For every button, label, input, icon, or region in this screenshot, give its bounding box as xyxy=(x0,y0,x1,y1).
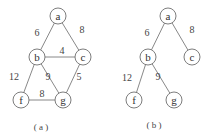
node-label: a xyxy=(56,10,61,22)
node-label: f xyxy=(132,94,136,106)
edge-weight-label: 12 xyxy=(9,71,19,82)
edge-weight-label: 4 xyxy=(60,45,65,56)
node-label: a xyxy=(166,10,171,22)
edge-weight-label: 8 xyxy=(80,24,85,35)
node-label: c xyxy=(190,51,195,63)
graph-canvas: 68412958abcfg 68129abcfg ( a ) ( b ) xyxy=(0,0,210,136)
node-label: f xyxy=(19,94,23,106)
node-label: b xyxy=(34,51,40,63)
edge-weight-label: 8 xyxy=(190,24,195,35)
edge-weight-label: 6 xyxy=(35,27,40,38)
node-label: b xyxy=(145,51,151,63)
edge-weight-label: 8 xyxy=(40,88,45,99)
figure-b-caption: ( b ) xyxy=(147,120,162,130)
edge-weight-label: 5 xyxy=(77,71,82,82)
node-label: c xyxy=(81,51,86,63)
edge-weight-label: 9 xyxy=(46,71,51,82)
edge-weight-label: 12 xyxy=(122,72,132,83)
edge-weight-label: 9 xyxy=(156,71,161,82)
figure-b-spanning-tree: 68129abcfg xyxy=(122,8,200,108)
figure-a-weighted-graph: 68412958abcfg xyxy=(9,8,91,108)
node-label: g xyxy=(171,94,177,106)
node-label: g xyxy=(60,94,66,106)
figure-a-caption: ( a ) xyxy=(34,122,49,132)
edge-weight-label: 6 xyxy=(145,27,150,38)
